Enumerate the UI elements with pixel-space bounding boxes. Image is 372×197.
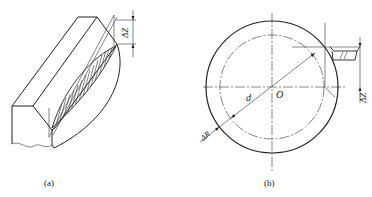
diameter-arrow-start [231,114,236,118]
guide-line-2 [53,17,117,135]
diagram-canvas: ΔZ (a) d O ΔR ΔZ [0,0,372,197]
radial-label: ΔR [198,130,212,144]
caption-a: (a) [44,178,54,188]
figure-a: ΔZ (a) [12,10,136,188]
weld-bead-outer [54,44,120,148]
radial-arrow [215,127,219,131]
center-label: O [276,89,283,100]
cutting-tool [292,23,360,97]
guide-line-1 [49,15,114,137]
dz-label-b: ΔZ [358,92,368,104]
figure-b: d O ΔR ΔZ (b) [198,13,368,188]
dz-label-a: ΔZ [120,27,130,39]
block-break-line [12,143,52,147]
diameter-label: d [246,92,252,103]
bead-end-edge [52,145,54,148]
caption-b: (b) [264,178,275,188]
